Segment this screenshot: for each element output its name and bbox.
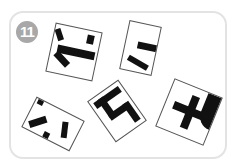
number-badge: 11 [16, 21, 38, 43]
stroke [28, 116, 47, 128]
stroke [55, 28, 64, 41]
stroke [37, 99, 45, 106]
stroke [137, 41, 159, 52]
stroke [42, 131, 50, 139]
puzzle-tile-1[interactable] [45, 23, 102, 82]
stroke [127, 55, 149, 71]
stroke [61, 122, 69, 139]
stroke [86, 35, 95, 45]
